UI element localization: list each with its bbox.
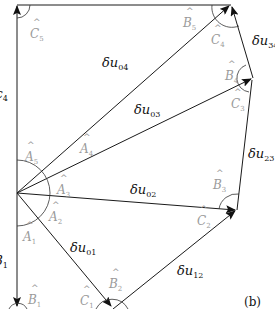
svg-text:C1: C1 xyxy=(80,294,94,309)
svg-text:^: ^ xyxy=(200,204,208,214)
angle-B1: ^ B1 xyxy=(27,283,41,309)
svg-text:B5: B5 xyxy=(182,16,196,32)
svg-text:B4: B4 xyxy=(224,69,239,85)
angle-B5: ^ B5 xyxy=(182,6,196,32)
svg-text:^: ^ xyxy=(83,284,91,294)
label-du04: δu04 xyxy=(102,55,128,72)
label-du12: δu12 xyxy=(177,263,203,280)
svg-text:^: ^ xyxy=(234,87,242,97)
label-du03: δu03 xyxy=(134,102,160,119)
arc-p2 xyxy=(219,194,239,209)
cut-label-left-lower: B1 xyxy=(0,254,8,270)
svg-text:^: ^ xyxy=(31,283,39,293)
svg-text:^: ^ xyxy=(83,132,91,142)
angle-C5: ^ C5 xyxy=(30,17,44,43)
label-du02: δu02 xyxy=(130,182,156,199)
angle-A1: ^ A1 xyxy=(22,220,36,246)
svg-text:^: ^ xyxy=(33,17,41,27)
svg-text:B2: B2 xyxy=(108,277,122,293)
svg-text:^: ^ xyxy=(214,23,222,33)
svg-text:^: ^ xyxy=(60,173,68,183)
svg-text:A5: A5 xyxy=(24,150,38,166)
svg-text:A4: A4 xyxy=(79,142,94,158)
vector-diagram: δu04 δu03 δu02 δu01 δu12 δu23 δu34 ^ A5 … xyxy=(0,0,275,309)
svg-text:B1: B1 xyxy=(27,293,41,309)
label-du34: δu34 xyxy=(252,33,275,50)
angle-C1: ^ C1 xyxy=(80,284,94,309)
vector-du12 xyxy=(113,211,235,309)
label-du23: δu23 xyxy=(248,146,274,163)
svg-text:^: ^ xyxy=(26,220,34,230)
angle-B2: ^ B2 xyxy=(108,267,122,293)
angle-B4: ^ B4 xyxy=(224,59,239,85)
svg-text:C3: C3 xyxy=(231,97,245,113)
angle-A3: ^ A3 xyxy=(56,173,70,199)
cut-label-left-upper: c4 xyxy=(0,87,8,103)
svg-text:^: ^ xyxy=(216,168,224,178)
svg-text:C5: C5 xyxy=(30,27,44,43)
svg-text:A1: A1 xyxy=(22,230,36,246)
angle-C3: ^ C3 xyxy=(231,87,245,113)
svg-text:^: ^ xyxy=(186,6,194,16)
svg-text:A3: A3 xyxy=(56,183,70,199)
svg-text:^: ^ xyxy=(27,140,35,150)
svg-text:B3: B3 xyxy=(212,178,226,194)
angle-B3: ^ B3 xyxy=(212,168,226,194)
angle-C4: ^ C4 xyxy=(211,23,225,49)
angle-A5: ^ A5 xyxy=(24,140,38,166)
svg-text:^: ^ xyxy=(112,267,120,277)
arc-bottom-left xyxy=(9,303,27,309)
svg-text:A2: A2 xyxy=(48,210,62,226)
arc-top-left xyxy=(17,5,30,18)
label-du01: δu01 xyxy=(70,240,96,257)
svg-text:^: ^ xyxy=(228,59,236,69)
svg-text:^: ^ xyxy=(52,200,60,210)
angle-A2: ^ A2 xyxy=(48,200,62,226)
svg-text:C2: C2 xyxy=(197,214,211,230)
panel-label: (b) xyxy=(244,295,261,309)
svg-text:C4: C4 xyxy=(211,33,225,49)
vector-du04 xyxy=(17,6,229,193)
